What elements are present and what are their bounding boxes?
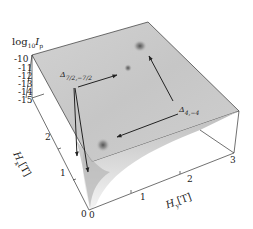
x-tick-2: 2 [187, 174, 193, 184]
z-label-log: log [12, 36, 28, 47]
dip-3 [96, 138, 110, 152]
y-tick-0: 0 [81, 209, 87, 219]
dip-1 [133, 40, 147, 52]
x-tick-0: 0 [89, 210, 95, 220]
dip-2 [124, 64, 132, 72]
delta1-sub: 7/2,−7/2 [66, 74, 92, 81]
surface-plot [0, 0, 253, 229]
x-tick-3: 3 [230, 155, 236, 165]
annotation-delta-4: Δ4,−4 [179, 105, 199, 118]
z-tick-0: -10 [14, 55, 29, 63]
delta2-sub: 4,−4 [185, 109, 200, 116]
z-label-var-sub: p [39, 42, 43, 49]
z-axis-label: log10Ip [12, 37, 43, 51]
y-tick-1: 1 [60, 168, 66, 178]
y-tick-2: 2 [45, 132, 51, 142]
annotation-delta-7-2: Δ7/2,−7/2 [60, 70, 92, 83]
z-tick-5: -15 [18, 96, 33, 104]
x-tick-1: 1 [140, 192, 146, 202]
